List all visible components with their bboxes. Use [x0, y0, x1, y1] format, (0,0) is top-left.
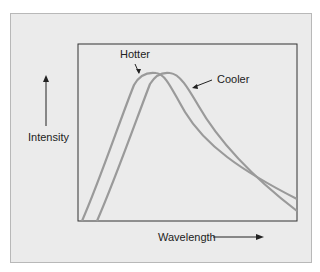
cooler-curve	[97, 73, 297, 221]
x-axis-label: Wavelength	[158, 231, 216, 243]
hotter-curve	[82, 73, 297, 221]
plot-frame	[78, 44, 297, 221]
y-axis-label: Intensity	[28, 131, 69, 143]
cooler-label: Cooler	[217, 73, 249, 85]
hotter-label: Hotter	[120, 48, 150, 60]
